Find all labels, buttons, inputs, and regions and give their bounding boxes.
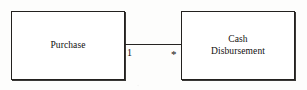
multiplicity-label-source: 1 xyxy=(127,48,132,58)
diagram-canvas: Purchase 1 * Cash Disbursement xyxy=(0,0,307,90)
association-line[interactable] xyxy=(124,44,182,45)
entity-label-cash-disbursement: Cash Disbursement xyxy=(211,34,265,57)
entity-box-purchase[interactable]: Purchase xyxy=(11,11,125,80)
multiplicity-label-target: * xyxy=(171,49,177,59)
entity-label-purchase: Purchase xyxy=(50,40,85,52)
entity-box-cash-disbursement[interactable]: Cash Disbursement xyxy=(181,11,295,80)
